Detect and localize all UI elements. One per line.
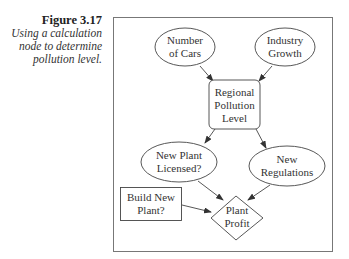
node-label-line: New Plant xyxy=(156,149,202,161)
node-label-line: Regional xyxy=(215,86,255,98)
node-label-line: Level xyxy=(222,112,247,124)
node-number-of-cars: Number of Cars xyxy=(155,28,215,66)
node-label-line: Growth xyxy=(268,47,302,59)
node-label-line: Plant? xyxy=(137,204,165,216)
node-label-line: Profit xyxy=(224,217,249,229)
node-label-line: Regulations xyxy=(261,166,314,178)
node-label-line: Licensed? xyxy=(157,162,202,174)
node-label-line: Plant xyxy=(226,204,249,216)
node-industry-growth: Industry Growth xyxy=(255,28,315,66)
node-label-line: of Cars xyxy=(169,47,201,59)
node-regional-pollution-level: Regional Pollution Level xyxy=(209,80,260,129)
node-label-line: Industry xyxy=(267,34,304,46)
node-label-line: Build New xyxy=(127,191,175,203)
node-new-regulations: New Regulations xyxy=(249,146,325,186)
node-new-plant-licensed: New Plant Licensed? xyxy=(141,142,217,182)
node-build-new-plant: Build New Plant? xyxy=(121,188,182,221)
node-label-line: New xyxy=(277,153,298,165)
node-label-line: Number xyxy=(167,34,203,46)
influence-diagram: Number of Cars Industry Growth Regional … xyxy=(0,0,349,259)
node-label-line: Pollution xyxy=(214,99,255,111)
